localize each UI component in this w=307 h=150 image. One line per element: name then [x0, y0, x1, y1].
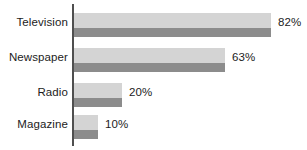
- category-label-television: Television: [17, 16, 69, 28]
- category-label-newspaper: Newspaper: [9, 51, 68, 63]
- bar-segment-dark: [74, 28, 271, 37]
- bar-segment-light: [74, 115, 98, 130]
- bar-segment-light: [74, 83, 122, 98]
- bar-chart: Television 82% Newspaper 63% Radio 20% M…: [0, 0, 307, 150]
- chart-row-television: Television 82%: [0, 13, 307, 37]
- chart-row-radio: Radio 20%: [0, 83, 307, 107]
- bar-television: [74, 13, 271, 37]
- chart-row-magazine: Magazine 10%: [0, 115, 307, 139]
- category-label-magazine: Magazine: [17, 118, 68, 130]
- bar-newspaper: [74, 48, 225, 72]
- bar-radio: [74, 83, 122, 107]
- bar-magazine: [74, 115, 98, 139]
- value-label-newspaper: 63%: [232, 51, 255, 63]
- value-label-magazine: 10%: [105, 118, 128, 130]
- category-label-radio: Radio: [37, 86, 68, 98]
- bar-segment-dark: [74, 98, 122, 107]
- value-label-television: 82%: [278, 16, 301, 28]
- bar-segment-light: [74, 48, 225, 63]
- bar-segment-light: [74, 13, 271, 28]
- chart-row-newspaper: Newspaper 63%: [0, 48, 307, 72]
- value-label-radio: 20%: [129, 86, 152, 98]
- bar-segment-dark: [74, 63, 225, 72]
- bar-segment-dark: [74, 130, 98, 139]
